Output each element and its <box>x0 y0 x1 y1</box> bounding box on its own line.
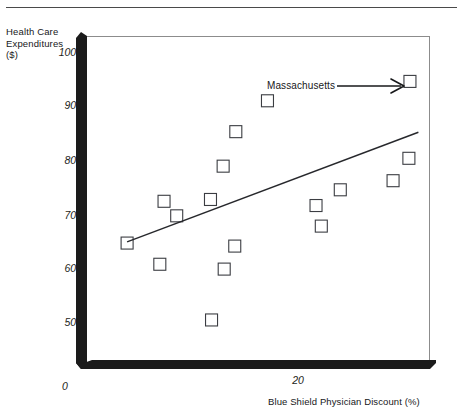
data-point <box>229 240 241 252</box>
data-point <box>218 263 230 275</box>
data-point <box>261 95 273 107</box>
data-layer <box>0 0 463 420</box>
data-point <box>206 314 218 326</box>
scatter-plot-figure: Health Care Expenditures ($) 1000 900 80… <box>0 0 463 420</box>
data-point <box>334 184 346 196</box>
data-point <box>154 258 166 270</box>
data-point <box>404 75 416 87</box>
massachusetts-arrow-icon <box>337 79 404 93</box>
trend-line <box>127 132 418 242</box>
data-point <box>403 152 415 164</box>
data-point <box>158 195 170 207</box>
data-point <box>204 193 216 205</box>
data-point <box>121 237 133 249</box>
data-point <box>310 200 322 212</box>
data-point <box>171 210 183 222</box>
data-point <box>315 220 327 232</box>
data-point-group <box>121 75 416 326</box>
data-point <box>230 126 242 138</box>
data-point <box>217 160 229 172</box>
massachusetts-annotation-label: Massachusetts <box>267 80 335 91</box>
data-point <box>387 175 399 187</box>
